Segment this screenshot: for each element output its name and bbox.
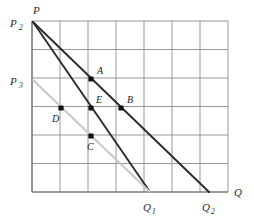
- tick-label-p2: P: [9, 17, 17, 29]
- figure-background: [0, 0, 254, 221]
- data-point-c: [88, 133, 93, 138]
- tick-sub-p2: 2: [19, 23, 23, 32]
- point-label-d: D: [51, 113, 60, 124]
- point-label-b: B: [127, 94, 133, 105]
- tick-label-p3: P: [9, 75, 17, 87]
- tick-label-q2: Q: [202, 201, 210, 213]
- tick-sub-p3: 3: [18, 81, 23, 90]
- tick-sub-q2: 2: [211, 207, 215, 216]
- tick-label-q1: Q: [143, 201, 151, 213]
- figure-canvas: PQP2P3Q1Q2ABCDE: [0, 0, 254, 221]
- point-label-e: E: [95, 94, 102, 105]
- data-point-d: [58, 105, 63, 110]
- tick-sub-q1: 1: [152, 207, 156, 216]
- point-label-c: C: [87, 141, 94, 152]
- point-label-a: A: [96, 65, 104, 76]
- data-point-b: [118, 105, 123, 110]
- price-axis-label: P: [32, 4, 40, 16]
- demand-curve-figure: PQP2P3Q1Q2ABCDE: [0, 0, 254, 221]
- quantity-axis-label: Q: [234, 186, 242, 198]
- data-point-a: [88, 76, 93, 81]
- data-point-e: [88, 105, 93, 110]
